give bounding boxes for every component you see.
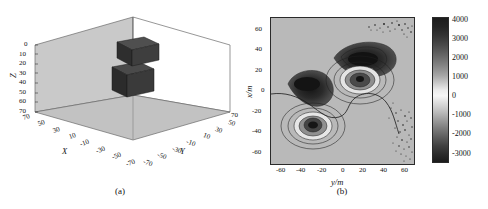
lower-cube (112, 62, 154, 97)
axis-label-xm: x/m (244, 86, 254, 98)
panel-a-3d-model: 0 10 20 30 40 50 60 70 Z 70 50 30 10 -10… (0, 0, 244, 209)
tick-xm-60: 60 (255, 26, 262, 33)
central-ring-core (356, 76, 364, 82)
tick-z-60: 60 (19, 98, 26, 105)
left-lobe-core (294, 77, 320, 91)
cbtick-2000: 2000 (452, 54, 468, 62)
tick-z-0: 0 (24, 41, 28, 48)
axis-label-z: Z (8, 73, 18, 78)
cbtick-m3000: -3000 (452, 150, 471, 158)
tick-xm-0: 0 (261, 87, 265, 94)
tick-xm-m40: -40 (252, 128, 261, 135)
tick-z-30: 30 (19, 70, 26, 77)
cbtick-m1000: -1000 (452, 111, 471, 119)
tick-ym-m60: -60 (276, 167, 285, 174)
tick-ym-40: 40 (380, 167, 387, 174)
tick-z-10: 10 (19, 51, 26, 58)
tick-z-50: 50 (19, 89, 26, 96)
tick-ym-m40: -40 (296, 167, 305, 174)
axis-label-x: X (62, 146, 67, 156)
contour-plot-area (270, 17, 415, 165)
axis-label-y: Y (180, 146, 185, 156)
tick-ym-20: 20 (359, 167, 366, 174)
caption-panel-b: (b) (322, 186, 362, 196)
tick-xm-m60: -60 (252, 149, 261, 156)
tick-y-70: 70 (231, 112, 238, 119)
tick-ym-m20: -20 (317, 167, 326, 174)
lower-ring-core (308, 122, 318, 129)
cbtick-4000: 4000 (452, 16, 468, 24)
cbtick-0: 0 (452, 92, 456, 100)
figure-root: 0 10 20 30 40 50 60 70 Z 70 50 30 10 -10… (0, 0, 488, 209)
cbtick-1000: 1000 (452, 73, 468, 81)
panel-b-contour-map: 60 40 20 0 -20 -40 -60 x/m -60 -40 -20 0… (244, 0, 488, 209)
tick-z-20: 20 (19, 60, 26, 67)
upper-lobe-core (348, 52, 378, 66)
tick-ym-0: 0 (341, 167, 345, 174)
tick-z-40: 40 (19, 79, 26, 86)
tick-ym-60: 60 (401, 167, 408, 174)
contour-graphic (271, 18, 414, 164)
tick-xm-20: 20 (255, 67, 262, 74)
cbtick-m2000: -2000 (452, 130, 471, 138)
cbtick-3000: 3000 (452, 35, 468, 43)
tick-xm-m20: -20 (252, 108, 261, 115)
colorbar (432, 17, 449, 163)
panel-a-graphic (0, 0, 244, 209)
tick-xm-40: 40 (255, 46, 262, 53)
caption-panel-a: (a) (100, 186, 140, 196)
